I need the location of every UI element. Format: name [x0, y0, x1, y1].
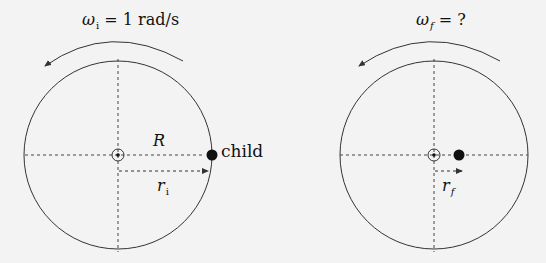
child-dot-final-icon — [454, 150, 465, 161]
ri-symbol: r — [157, 176, 165, 195]
child-dot-initial-icon — [207, 150, 218, 161]
omega-final-subscript: f — [430, 20, 434, 31]
omega-initial-label: ωi = 1 rad/s — [82, 12, 179, 28]
child-label: child — [221, 143, 263, 160]
final-panel — [340, 42, 528, 252]
ri-label: ri — [157, 178, 169, 194]
omega-initial-symbol: ω — [82, 10, 95, 29]
pivot-dot-final-icon — [432, 153, 436, 157]
diagram-canvas: ωi = 1 rad/s R child ri ωf = ? rf — [0, 0, 546, 263]
omega-final-value: = ? — [439, 10, 466, 29]
initial-panel — [24, 42, 218, 252]
pivot-dot-initial-icon — [116, 153, 120, 157]
rotation-arrow-initial-icon — [45, 42, 183, 66]
omega-initial-value: = 1 rad/s — [104, 10, 179, 29]
omega-initial-subscript: i — [96, 20, 99, 31]
rf-subscript: f — [451, 186, 455, 197]
rotation-arrow-final-icon — [359, 42, 500, 66]
rf-symbol: r — [442, 176, 450, 195]
ri-subscript: i — [166, 186, 169, 197]
rf-label: rf — [442, 178, 454, 194]
radius-R-label: R — [153, 133, 165, 149]
omega-final-label: ωf = ? — [416, 12, 466, 28]
omega-final-symbol: ω — [416, 10, 429, 29]
diagram-graphics — [0, 0, 546, 263]
